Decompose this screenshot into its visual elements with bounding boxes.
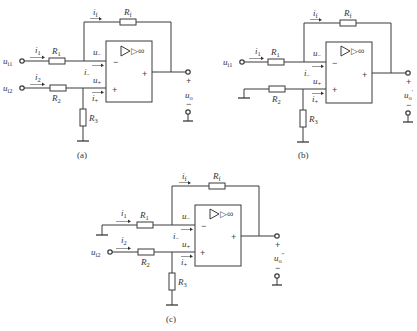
resistor-r2-b [269, 86, 285, 92]
output-terminal-b [406, 71, 410, 75]
caption-b: (b) [298, 150, 309, 160]
label-ui2-c: ui2 [91, 247, 101, 258]
resistor-r2-a [50, 85, 66, 91]
svg-text:▷∞: ▷∞ [220, 209, 233, 219]
label-i2-c: i2 [121, 235, 127, 246]
panel-b: ▷∞ − + + ui1 i1 R1 R2 if Rf u− i− u+ [223, 8, 414, 160]
label-u-plus-c: u+ [182, 239, 191, 250]
arrow-i1-c [116, 220, 131, 224]
resistor-r3-b [300, 110, 306, 127]
output-plus-c: + [275, 240, 280, 250]
resistor-r1-c [137, 222, 153, 228]
label-r3-b: R3 [308, 114, 318, 125]
arrow-i2-c [116, 247, 131, 251]
arrow-i-minus-b [312, 65, 324, 69]
label-rf-c: Rf [212, 171, 222, 182]
label-r1-a: R1 [51, 46, 61, 57]
resistor-rf-c [209, 183, 225, 189]
label-r3-c: R3 [177, 277, 187, 288]
label-i-plus-b: i+ [312, 94, 319, 105]
inverting-sign-b: − [332, 58, 337, 68]
output-ground-terminal-a [186, 110, 190, 114]
label-i-plus-a: i+ [92, 93, 99, 104]
input-terminal-ui2-a [20, 86, 24, 90]
output-plus-b: + [406, 77, 411, 87]
label-i-minus-b: i− [304, 68, 311, 79]
label-r2-c: R2 [140, 257, 150, 268]
resistor-rf-b [340, 20, 356, 26]
caption-c: (c) [166, 314, 176, 324]
arrow-i1-b [249, 57, 264, 61]
resistor-rf-a [120, 19, 136, 25]
label-u-plus-a: u+ [93, 75, 102, 86]
input-terminal-ui1-a [20, 59, 24, 63]
label-i1-a: i1 [35, 45, 41, 56]
input-terminal-ui2-c [108, 250, 112, 254]
label-u-plus-b: u+ [313, 76, 322, 87]
label-rf-a: Rf [123, 7, 133, 18]
label-i-minus-a: i− [84, 67, 91, 78]
resistor-r3-c [169, 273, 175, 290]
output-ground-terminal-c [275, 274, 279, 278]
caption-a: (a) [77, 150, 87, 160]
label-u-minus-a: u− [93, 47, 102, 58]
arrow-i2-a [30, 83, 45, 87]
label-if-b: if [313, 8, 319, 19]
output-minus-a: − [186, 99, 191, 109]
label-i1-b: i1 [255, 46, 261, 57]
label-i-plus-c: i+ [181, 257, 188, 268]
output-minus-b: − [406, 100, 411, 110]
noninverting-sign-a: + [112, 85, 117, 95]
output-terminal-c [275, 234, 279, 238]
label-ui1-b: ui1 [223, 57, 233, 68]
input-terminal-ui1-b [240, 60, 244, 64]
label-ui2-a: ui2 [3, 83, 13, 94]
label-if-a: if [93, 7, 99, 18]
label-u-minus-c: u− [182, 211, 191, 222]
arrow-i-minus-a [92, 64, 104, 68]
label-if-c: if [182, 171, 188, 182]
resistor-r3-a [80, 109, 86, 126]
label-rf-b: Rf [343, 8, 353, 19]
output-plus-a: + [186, 76, 191, 86]
output-sign-c: + [231, 232, 236, 242]
label-i1-c: i1 [121, 208, 127, 219]
opamp-circuit-figure: ▷∞ − + + ui1 i1 R1 ui2 i2 R2 if Rf u− [0, 0, 417, 331]
inverting-sign-a: − [113, 57, 118, 67]
panel-a: ▷∞ − + + ui1 i1 R1 ui2 i2 R2 if Rf u− [3, 7, 193, 160]
output-ground-terminal-b [406, 111, 410, 115]
panel-c: ▷∞ − + + i1 R1 ui2 i2 R2 if Rf u− [91, 171, 285, 324]
label-r1-c: R1 [139, 210, 149, 221]
label-r1-b: R1 [270, 47, 280, 58]
output-minus-c: − [275, 263, 280, 273]
label-ui1-a: ui1 [3, 56, 13, 67]
inverting-sign-c: − [201, 221, 206, 231]
resistor-r1-a [49, 58, 65, 64]
label-r3-a: R3 [88, 113, 98, 124]
label-r2-b: R2 [271, 94, 281, 105]
svg-text:▷∞: ▷∞ [351, 46, 364, 56]
resistor-r2-c [138, 249, 154, 255]
arrow-i-minus-c [181, 228, 193, 232]
label-i2-a: i2 [35, 72, 41, 83]
output-sign-b: + [362, 70, 367, 80]
noninverting-sign-b: + [332, 85, 337, 95]
svg-text:▷∞: ▷∞ [131, 46, 144, 56]
resistor-r1-b [268, 59, 284, 65]
label-i-minus-c: i− [173, 231, 180, 242]
output-sign-a: + [142, 69, 147, 79]
label-u-minus-b: u− [313, 48, 322, 59]
output-terminal-a [186, 70, 190, 74]
noninverting-sign-c: + [200, 248, 205, 258]
label-r2-a: R2 [51, 93, 61, 104]
arrow-i1-a [30, 56, 45, 60]
